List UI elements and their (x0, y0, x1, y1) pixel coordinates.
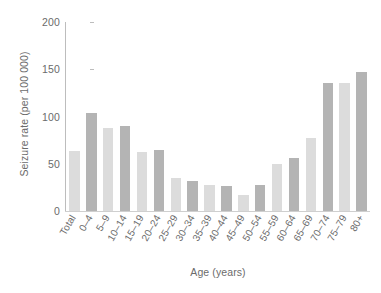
x-axis-title: Age (years) (66, 266, 370, 278)
bar (221, 186, 231, 212)
bar (204, 185, 214, 211)
bar (323, 83, 333, 211)
bar-slot (167, 22, 184, 211)
bar-slot (83, 22, 100, 211)
bar-slot (319, 22, 336, 211)
bar (171, 178, 181, 211)
bar (306, 138, 316, 211)
bar-slot (235, 22, 252, 211)
y-axis-tick-label: 150 (28, 63, 60, 75)
bar (255, 185, 265, 211)
bar-slot (269, 22, 286, 211)
plot-area (66, 22, 370, 211)
y-axis-tick-label: 50 (28, 158, 60, 170)
bar (86, 113, 96, 211)
bar (238, 195, 248, 211)
x-axis-tick-label-text: Total (58, 213, 78, 237)
bar-slot (252, 22, 269, 211)
bar (272, 164, 282, 211)
x-axis-tick-label: 80+ (353, 213, 370, 263)
y-axis-tick-label: 0 (28, 205, 60, 217)
seizure-rate-bar-chart: Seizure rate (per 100 000) 050100150200 … (0, 0, 381, 293)
bar-slot (218, 22, 235, 211)
bar-slot (184, 22, 201, 211)
bar-slot (286, 22, 303, 211)
bar (187, 181, 197, 211)
bar-slot (336, 22, 353, 211)
bar (137, 152, 147, 211)
bar (339, 83, 349, 211)
bar-slot (201, 22, 218, 211)
bar-slot (66, 22, 83, 211)
x-axis-line (65, 211, 370, 212)
y-axis-tick-label: 200 (28, 16, 60, 28)
y-axis: 050100150200 (28, 16, 60, 216)
bar (289, 158, 299, 211)
bar (120, 126, 130, 211)
y-axis-tick-label: 100 (28, 111, 60, 123)
bar-slot (117, 22, 134, 211)
x-axis-tick-labels: Total0–45–910–1415–1920–2425–2930–3435–3… (66, 213, 370, 263)
bar (69, 151, 79, 211)
bar (356, 72, 366, 211)
bar-slot (134, 22, 151, 211)
bar-slot (150, 22, 167, 211)
bar-slot (353, 22, 370, 211)
bar-slot (100, 22, 117, 211)
bar-slot (302, 22, 319, 211)
bar (103, 128, 113, 211)
bar (154, 150, 164, 211)
